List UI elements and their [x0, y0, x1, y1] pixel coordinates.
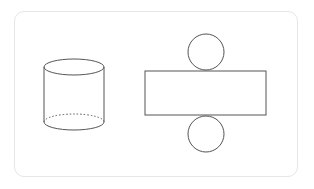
cylinder-bottom-hidden-arc	[44, 114, 104, 122]
cylinder-top-ellipse	[44, 59, 104, 75]
net-rectangle	[145, 71, 266, 115]
net-top-circle	[188, 34, 224, 70]
net-bottom-circle	[188, 116, 224, 152]
cylinder-bottom-front-arc	[44, 122, 104, 130]
cylinder-figure	[44, 59, 104, 130]
cylinder-net	[145, 34, 266, 152]
diagram-canvas	[0, 0, 314, 189]
